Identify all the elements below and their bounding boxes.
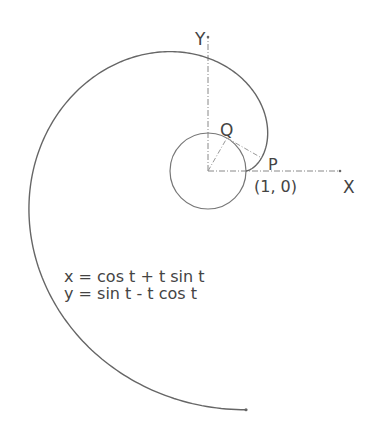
x-axis-arrow-dot (339, 170, 342, 173)
involute-diagram: Y X Q P (1, 0) x = cos t + t sin t y = s… (0, 0, 377, 444)
point-p-label: P (268, 155, 278, 174)
curve-end-point (244, 408, 247, 411)
radius-line-oq (208, 138, 227, 171)
point-q-label: Q (220, 120, 233, 140)
y-axis-label: Y (194, 29, 206, 49)
involute-curve (29, 52, 268, 410)
start-point-label: (1, 0) (254, 177, 297, 196)
y-axis-arrow-dot (207, 36, 210, 39)
equation-y: y = sin t - t cos t (64, 284, 197, 303)
x-axis-label: X (343, 177, 355, 197)
